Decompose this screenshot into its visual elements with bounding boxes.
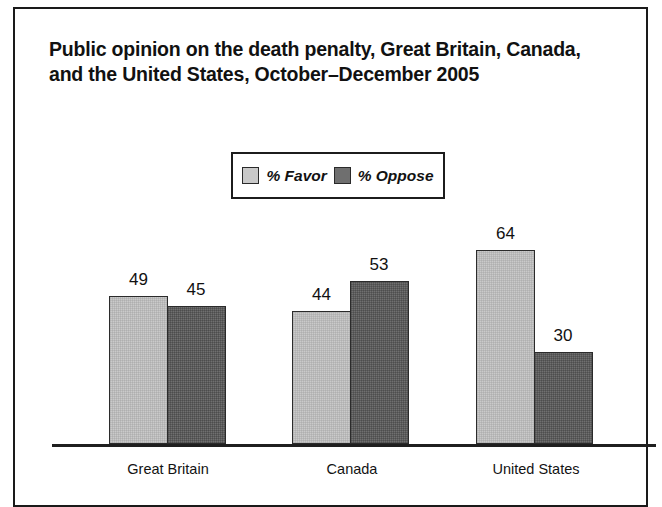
bar-value-great-britain-favor: 49 [129, 270, 148, 290]
plot-area: 49 45 44 53 64 30 [52, 219, 656, 447]
bar-value-united-states-favor: 64 [496, 224, 515, 244]
bar-value-canada-oppose: 53 [370, 255, 389, 275]
bar-canada-favor: 44 [292, 311, 351, 444]
category-label-united-states: United States [492, 461, 579, 477]
chart-title: Public opinion on the death penalty, Gre… [49, 37, 609, 87]
bar-united-states-oppose: 30 [534, 352, 593, 444]
bar-value-canada-favor: 44 [312, 285, 331, 305]
bar-canada-oppose: 53 [350, 281, 409, 444]
legend-item-favor: % Favor [242, 167, 326, 185]
bar-group-great-britain: 49 45 [109, 229, 226, 444]
bar-united-states-favor: 64 [476, 250, 535, 444]
bar-group-canada: 44 53 [292, 229, 409, 444]
bar-great-britain-favor: 49 [109, 296, 168, 444]
legend-label-favor: % Favor [266, 167, 326, 185]
bar-value-united-states-oppose: 30 [554, 326, 573, 346]
legend-swatch-oppose-icon [334, 167, 351, 184]
legend-label-oppose: % Oppose [358, 167, 434, 185]
chart-legend: % Favor % Oppose [231, 152, 445, 199]
bar-value-great-britain-oppose: 45 [187, 280, 206, 300]
bar-great-britain-oppose: 45 [167, 306, 226, 444]
category-label-canada: Canada [327, 461, 378, 477]
figure-frame: Public opinion on the death penalty, Gre… [13, 7, 648, 507]
bar-group-united-states: 64 30 [476, 229, 593, 444]
x-axis-line [52, 444, 656, 447]
legend-item-oppose: % Oppose [334, 167, 434, 185]
category-label-great-britain: Great Britain [127, 461, 208, 477]
legend-swatch-favor-icon [242, 167, 259, 184]
